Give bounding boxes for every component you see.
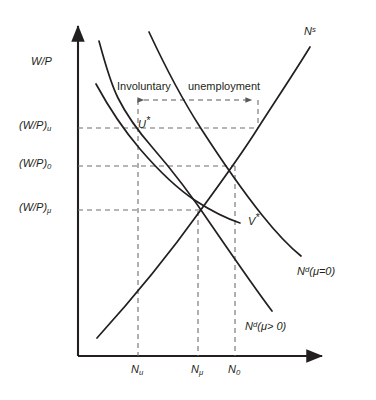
subscript-mu: μ bbox=[47, 206, 51, 215]
subscript-u: u bbox=[139, 368, 143, 377]
labor-demand-zero-markup-curve bbox=[149, 32, 301, 256]
curve-label-labor-demand-zero-markup: Nd(μ=0) bbox=[297, 266, 335, 277]
axes bbox=[78, 26, 322, 356]
y-axis-label: W/P bbox=[31, 56, 52, 67]
x-tick-label-n-0: N0 bbox=[228, 364, 240, 377]
annotation-involuntary: Involuntary bbox=[117, 81, 171, 92]
argument-mu-equals-zero: (μ=0) bbox=[309, 265, 335, 277]
asterisk: * bbox=[255, 212, 259, 223]
dashed-guides bbox=[78, 100, 258, 356]
y-tick-label-wp-0: (W/P)0 bbox=[19, 158, 51, 171]
point-label-v-star: V* bbox=[248, 213, 259, 227]
y-tick-label-wp-mu: (W/P)μ bbox=[19, 202, 51, 215]
curve-label-labor-supply: Ns bbox=[304, 26, 316, 37]
subscript-u: u bbox=[47, 124, 51, 133]
point-label-u-star: U* bbox=[138, 116, 150, 130]
superscript-s: s bbox=[312, 25, 316, 34]
subscript-0: 0 bbox=[236, 368, 240, 377]
curves bbox=[96, 32, 310, 338]
argument-mu-greater-zero: (μ> 0) bbox=[257, 320, 286, 332]
y-tick-label-wp-u: (W/P)u bbox=[19, 120, 51, 133]
labor-market-diagram: W/P (W/P)u (W/P)0 (W/P)μ Nu Nμ N0 Ns Nd(… bbox=[0, 0, 376, 400]
annotation-unemployment: unemployment bbox=[188, 81, 260, 92]
subscript-mu: μ bbox=[199, 368, 203, 377]
subscript-0: 0 bbox=[47, 162, 51, 171]
x-tick-label-n-u: Nu bbox=[131, 364, 143, 377]
curve-label-labor-demand-positive-markup: Nd(μ> 0) bbox=[245, 321, 286, 332]
diagram-canvas bbox=[0, 0, 376, 400]
asterisk: * bbox=[146, 115, 150, 126]
x-tick-label-n-mu: Nμ bbox=[191, 364, 203, 377]
